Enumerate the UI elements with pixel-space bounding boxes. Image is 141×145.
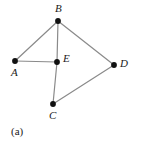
vertex-label-d: D (120, 58, 128, 69)
vertex-label-e: E (63, 53, 70, 64)
graph-vertex-b (55, 18, 61, 24)
figure-caption: (a) (11, 126, 23, 137)
graph-edge-c-d (53, 65, 114, 104)
graph-edge-b-e (57, 21, 58, 62)
graph-edge-a-e (15, 61, 57, 62)
vertex-label-a: A (11, 67, 18, 78)
vertex-label-c: C (49, 110, 56, 121)
figure-container: A B C D E (a) (0, 0, 141, 145)
graph-canvas (0, 0, 141, 145)
graph-vertex-d (111, 62, 117, 68)
graph-edge-a-b (15, 21, 58, 61)
graph-vertex-e (54, 59, 60, 65)
graph-vertex-c (50, 101, 56, 107)
graph-vertex-a (12, 58, 18, 64)
vertex-label-b: B (55, 3, 62, 14)
graph-edge-e-c (53, 62, 57, 104)
